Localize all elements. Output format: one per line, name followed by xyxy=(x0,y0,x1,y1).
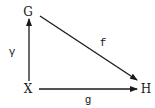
label-f: f xyxy=(100,38,107,49)
commutative-diagram: G X H γ f g xyxy=(0,0,155,108)
node-h: H xyxy=(141,83,151,95)
node-x: X xyxy=(24,83,33,95)
label-g: g xyxy=(85,95,92,106)
node-g: G xyxy=(23,6,33,18)
arrow-f-g-to-h xyxy=(40,16,137,80)
label-gamma: γ xyxy=(9,47,16,58)
